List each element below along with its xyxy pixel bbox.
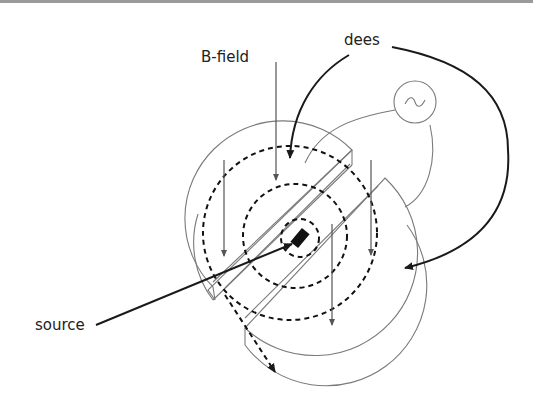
ion-source-block xyxy=(290,228,309,248)
b-field-arrows xyxy=(224,62,371,325)
sine-icon xyxy=(405,98,425,107)
wire-upper-dee xyxy=(305,110,395,163)
source-leader xyxy=(96,244,292,325)
label-source: source xyxy=(35,316,85,334)
label-b-field: B-field xyxy=(201,48,249,66)
cyclotron-diagram: dees B-field source xyxy=(0,0,533,395)
dees-leader-lower xyxy=(392,47,508,268)
exit-beam-arrow xyxy=(225,295,275,372)
dee-lower xyxy=(245,178,427,386)
wire-lower-dee xyxy=(405,125,433,207)
dees-leader-upper xyxy=(290,55,349,158)
label-dees: dees xyxy=(344,31,380,49)
particle-spiral-path xyxy=(203,146,377,372)
